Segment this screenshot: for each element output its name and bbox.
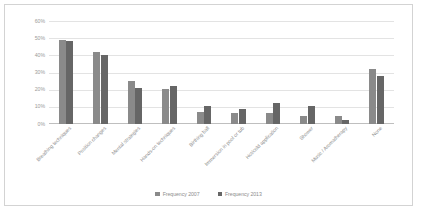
x-axis-category-labels: Breathing techniquesPosition changesMent… <box>49 125 394 187</box>
bar[interactable] <box>300 116 307 124</box>
bar[interactable] <box>66 41 73 124</box>
legend-label: Frequency 2013 <box>225 191 262 197</box>
legend-item[interactable]: Frequency 2007 <box>155 191 199 197</box>
bar[interactable] <box>231 113 238 124</box>
y-axis: 0%10%20%30%40%50%60% <box>9 21 45 124</box>
legend-swatch-icon <box>155 192 160 197</box>
chart-legend: Frequency 2007Frequency 2013 <box>5 191 412 197</box>
bar[interactable] <box>266 113 273 124</box>
bar-group <box>325 21 360 124</box>
y-axis-tick-label: 60% <box>11 19 45 24</box>
bar[interactable] <box>335 116 342 124</box>
y-axis-tick-label: 10% <box>11 104 45 109</box>
bar[interactable] <box>170 86 177 124</box>
y-axis-tick-label: 0% <box>11 122 45 127</box>
bar[interactable] <box>101 55 108 124</box>
y-axis-tick-label: 20% <box>11 87 45 92</box>
chart-container: 0%10%20%30%40%50%60% Breathing technique… <box>4 4 413 206</box>
bar[interactable] <box>135 88 142 124</box>
legend-swatch-icon <box>218 192 223 197</box>
bar[interactable] <box>377 76 384 124</box>
legend-label: Frequency 2007 <box>163 191 200 197</box>
bar[interactable] <box>197 112 204 124</box>
y-axis-tick-label: 40% <box>11 53 45 58</box>
y-axis-tick-label: 30% <box>11 70 45 75</box>
legend-item[interactable]: Frequency 2013 <box>218 191 262 197</box>
bar[interactable] <box>59 40 66 124</box>
bar[interactable] <box>93 52 100 124</box>
y-axis-tick-label: 50% <box>11 36 45 41</box>
bar-group <box>49 21 84 124</box>
